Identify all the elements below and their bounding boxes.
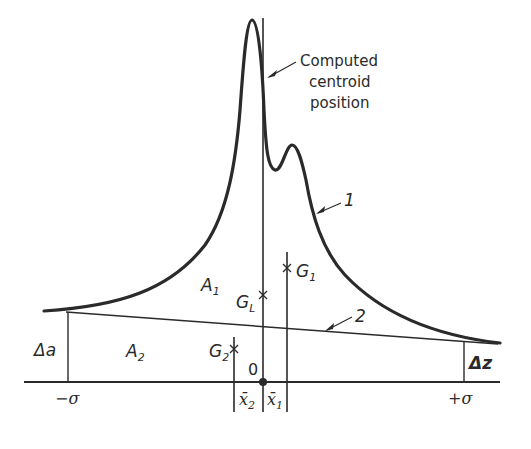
centroid-g2-label: G2 (209, 341, 229, 364)
minus-sigma-label: −σ (55, 389, 80, 408)
centroid-gl-label: GL (236, 292, 255, 315)
x1-label: x̄1 (267, 390, 283, 412)
centroid-diagram: Computed centroid position 1 2 A1 A2 G1 … (0, 0, 531, 449)
callout-line-3: position (310, 94, 369, 112)
curve-label-1: 1 (344, 190, 355, 210)
delta-z-label: Δz (467, 353, 492, 373)
area-a1-label: A1 (200, 275, 220, 298)
area-a2-label: A2 (125, 341, 145, 364)
curve-arrowhead-icon (316, 206, 325, 214)
plus-sigma-label: +σ (448, 389, 473, 408)
callout-arrowhead-icon (267, 70, 277, 78)
x2-label: x̄2 (239, 390, 255, 412)
callout-line-1: Computed (300, 52, 378, 70)
centroid-g1-label: G1 (296, 261, 316, 284)
origin-dot (259, 378, 267, 386)
delta-a-label: Δa (32, 340, 56, 360)
callout-line-2: centroid (309, 73, 371, 91)
profile-curve (44, 20, 500, 343)
baseline-label-2: 2 (355, 306, 366, 326)
origin-label: 0 (248, 360, 258, 379)
baseline-arrowhead-icon (325, 323, 334, 331)
